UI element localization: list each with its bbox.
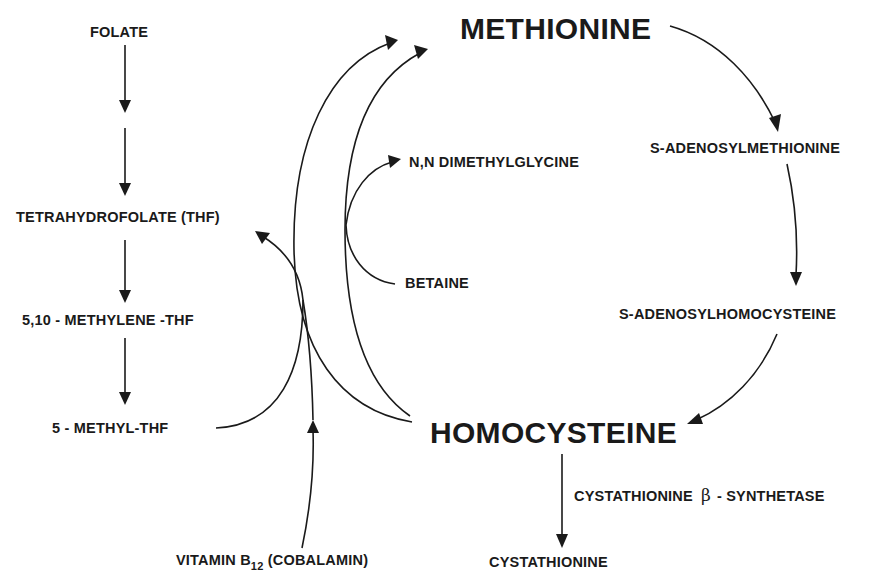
label-s-adenosylhomocysteine: S-ADENOSYLHOMOCYSTEINE [619, 307, 836, 322]
label-betaine: BETAINE [405, 276, 469, 291]
enzyme-name-prefix: CYSTATHIONINE [574, 488, 693, 504]
arrow-homocysteine-to-methionine-inner [345, 45, 428, 416]
label-dimethylglycine: N,N DIMETHYLGLYCINE [409, 155, 579, 170]
arrow-sam-to-sah [787, 164, 802, 286]
label-folate: FOLATE [90, 25, 148, 40]
label-homocysteine: HOMOCYSTEINE [430, 418, 677, 448]
label-methionine: METHIONINE [460, 14, 651, 44]
label-s-adenosylmethionine: S-ADENOSYLMETHIONINE [650, 141, 840, 156]
beta-symbol: β [701, 485, 711, 505]
label-methylene-thf: 5,10 - METHYLENE -THF [22, 313, 194, 328]
arrow-sah-to-homocysteine [687, 334, 777, 424]
arrow-folate-to-intermediate [119, 45, 131, 113]
label-methyl-thf: 5 - METHYL-THF [52, 421, 168, 436]
betaine-curve [346, 225, 395, 284]
b12-prefix: VITAMIN B [176, 552, 251, 568]
label-cystathionine: CYSTATHIONINE [489, 555, 608, 570]
arrow-homocysteine-to-methionine-outer [294, 35, 412, 422]
metabolic-pathway-diagram: FOLATE TETRAHYDROFOLATE (THF) 5,10 - MET… [0, 0, 895, 581]
arrow-homocysteine-to-cystathionine [556, 454, 568, 548]
enzyme-name-suffix: - SYNTHETASE [717, 488, 825, 504]
arrow-methyl-thf-to-thf [216, 231, 303, 428]
label-tetrahydrofolate: TETRAHYDROFOLATE (THF) [16, 210, 220, 225]
label-cystathionine-beta-synthetase: CYSTATHIONINEβ- SYNTHETASE [574, 487, 825, 504]
arrow-methylene-to-methyl-thf [119, 338, 131, 405]
b12-subscript: 12 [251, 560, 264, 572]
arrow-to-dimethylglycine [346, 155, 401, 225]
label-vitamin-b12: VITAMIN B12 (COBALAMIN) [176, 553, 368, 568]
arrow-intermediate-to-thf [119, 128, 131, 196]
arrow-thf-to-methylene-thf [119, 240, 131, 303]
arrow-methionine-to-sam [670, 26, 781, 132]
b12-suffix: (COBALAMIN) [263, 552, 368, 568]
